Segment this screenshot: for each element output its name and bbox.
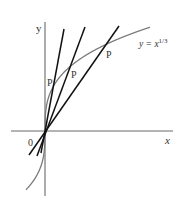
- point-label-p1: P: [47, 77, 53, 88]
- point-label-p3: P: [106, 49, 112, 60]
- curve-label-exponent: 1/3: [159, 37, 168, 45]
- curve-label-base: y = x: [138, 39, 159, 49]
- secant-line-3: [29, 26, 119, 155]
- x-axis-label: x: [164, 134, 170, 146]
- y-axis-label: y: [36, 22, 42, 34]
- curve-equation-label: y = x1/3: [138, 37, 168, 49]
- point-label-p2: P: [71, 69, 77, 80]
- origin-label: 0: [28, 137, 33, 148]
- cube-root-secant-diagram: y x 0 P P P y = x1/3: [0, 0, 187, 203]
